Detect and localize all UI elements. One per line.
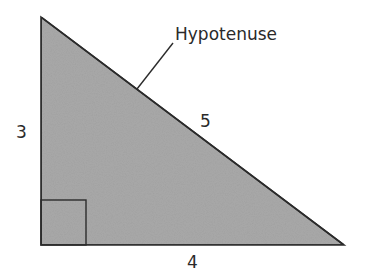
hypotenuse-callout-label: Hypotenuse — [175, 24, 277, 44]
side-label-hypotenuse: 5 — [200, 111, 211, 131]
right-triangle-diagram: Hypotenuse 3 5 4 — [0, 0, 377, 278]
hypotenuse-leader-line — [137, 43, 173, 89]
side-label-horizontal: 4 — [187, 252, 198, 272]
side-label-vertical: 3 — [16, 122, 27, 142]
